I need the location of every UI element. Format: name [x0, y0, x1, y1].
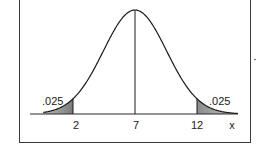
normal-distribution-chart: .025 .025 2 7 12 x — [0, 0, 256, 163]
x-axis-label: x — [229, 120, 235, 131]
right-tail-area-label: .025 — [209, 96, 230, 107]
stray-mark — [254, 59, 256, 60]
x-tick-label-2: 2 — [73, 120, 79, 131]
left-tail-area-label: .025 — [42, 96, 63, 107]
x-tick-label-7: 7 — [133, 120, 139, 131]
x-tick-label-12: 12 — [191, 120, 203, 131]
plot-area — [0, 0, 256, 163]
